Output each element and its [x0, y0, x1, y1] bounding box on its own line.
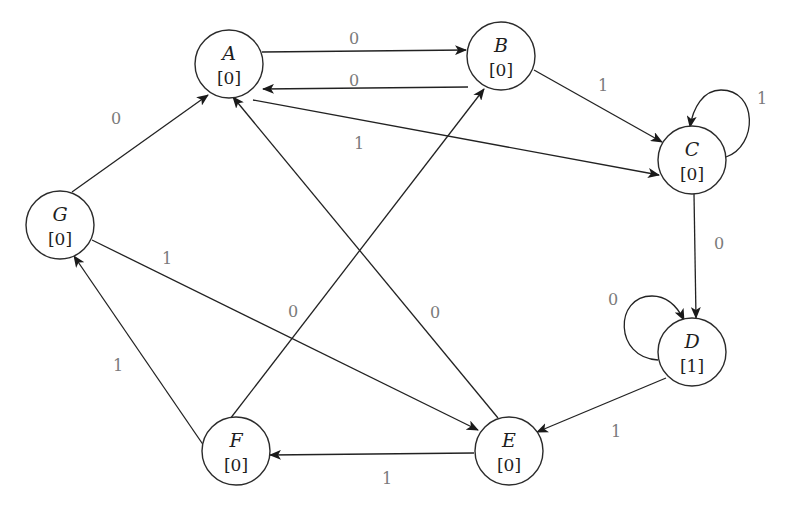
- edge-label-E-A: 0: [430, 303, 440, 322]
- node-A: A [0]: [195, 30, 263, 98]
- edge-C-to-D: [694, 194, 696, 318]
- edge-F-to-G: [74, 256, 204, 446]
- state-name-E: E: [501, 429, 516, 451]
- edge-label-A-B: 0: [349, 29, 359, 48]
- state-output-C: [0]: [680, 164, 704, 184]
- edge-E-to-F: [270, 453, 474, 455]
- edge-label-C-D: 0: [714, 234, 724, 253]
- edge-label-D-E: 1: [611, 422, 621, 441]
- edges: [72, 50, 749, 455]
- edge-D-to-E: [537, 378, 666, 432]
- node-B: B [0]: [467, 22, 535, 90]
- state-diagram: 0 0 1 1 1 0 0 1 1 1 0 1 0 0 A [0] B [0] …: [0, 0, 792, 511]
- state-output-F: [0]: [224, 455, 248, 475]
- edge-labels: 0 0 1 1 1 0 0 1 1 1 0 1 0 0: [111, 29, 767, 488]
- edge-label-F-B: 0: [288, 302, 298, 321]
- edge-label-G-A: 0: [111, 109, 121, 128]
- edge-label-A-C: 1: [354, 134, 364, 153]
- state-output-E: [0]: [497, 455, 521, 475]
- node-F: F [0]: [202, 417, 270, 485]
- node-E: E [0]: [475, 417, 543, 485]
- state-output-D: [1]: [680, 356, 704, 376]
- state-output-A: [0]: [217, 68, 241, 88]
- edge-label-B-A: 0: [349, 71, 359, 90]
- state-output-G: [0]: [48, 229, 72, 249]
- edge-label-F-G: 1: [113, 356, 123, 375]
- state-name-F: F: [228, 429, 243, 451]
- edge-G-to-A: [72, 95, 208, 192]
- edge-B-to-A: [263, 87, 468, 89]
- edge-label-C-C: 1: [757, 89, 767, 108]
- state-name-C: C: [685, 138, 700, 160]
- edge-label-E-F: 1: [382, 469, 392, 488]
- node-C: C [0]: [658, 126, 726, 194]
- state-name-B: B: [493, 34, 508, 56]
- state-name-D: D: [683, 330, 699, 352]
- node-G: G [0]: [26, 191, 94, 259]
- edge-label-B-C: 1: [598, 76, 608, 95]
- edge-label-D-D: 0: [608, 290, 618, 309]
- edge-A-to-C: [253, 100, 659, 175]
- node-D: D [1]: [658, 318, 726, 386]
- edge-A-to-B: [262, 50, 466, 52]
- state-output-B: [0]: [489, 60, 513, 80]
- edge-G-to-E: [92, 240, 478, 430]
- state-name-A: A: [220, 42, 236, 64]
- state-name-G: G: [52, 203, 67, 225]
- edge-label-G-E: 1: [162, 249, 172, 268]
- edge-E-to-A: [233, 97, 498, 418]
